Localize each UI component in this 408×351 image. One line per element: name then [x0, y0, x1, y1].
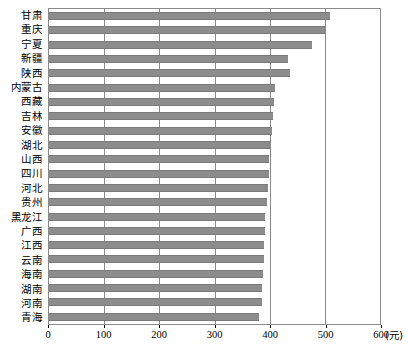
bar: [49, 227, 265, 235]
bar-row: [49, 38, 380, 52]
bar: [49, 155, 269, 163]
category-label: 宁夏: [0, 37, 45, 51]
bar: [49, 98, 274, 106]
category-axis-labels: 甘肃重庆宁夏新疆陕西内蒙古西藏吉林安徽湖北山西四川河北贵州黑龙江广西江西云南海南…: [0, 8, 45, 325]
bar-row: [49, 238, 380, 252]
bar: [49, 12, 330, 20]
bar-row: [49, 152, 380, 166]
axis-tick: [326, 325, 327, 328]
category-label: 陕西: [0, 66, 45, 80]
bar-row: [49, 124, 380, 138]
category-label: 新疆: [0, 51, 45, 65]
bar-row: [49, 138, 380, 152]
bar: [49, 313, 259, 321]
axis-tick: [48, 325, 49, 328]
bar-row: [49, 195, 380, 209]
bar-row: [49, 95, 380, 109]
axis-tick-label: 400: [262, 330, 278, 341]
bar: [49, 213, 265, 221]
category-label: 广西: [0, 224, 45, 238]
category-label: 内蒙古: [0, 80, 45, 94]
bar: [49, 55, 288, 63]
category-label: 青海: [0, 311, 45, 325]
bar: [49, 255, 264, 263]
axis-tick-label: 100: [96, 330, 112, 341]
bar: [49, 112, 273, 120]
category-label: 海南: [0, 267, 45, 281]
bar-row: [49, 109, 380, 123]
axis-tick: [104, 325, 105, 328]
category-label: 西藏: [0, 94, 45, 108]
axis-tick-label: 200: [151, 330, 167, 341]
axis-unit-label: (元): [385, 330, 403, 341]
category-label: 山西: [0, 152, 45, 166]
axis-tick: [381, 325, 382, 328]
plot-area: [48, 8, 381, 325]
bar: [49, 298, 262, 306]
category-label: 江西: [0, 239, 45, 253]
category-label: 甘肃: [0, 8, 45, 22]
category-label: 湖南: [0, 282, 45, 296]
bar: [49, 184, 268, 192]
axis-tick: [270, 325, 271, 328]
category-label: 贵州: [0, 195, 45, 209]
bar: [49, 84, 275, 92]
bar-row: [49, 295, 380, 309]
category-label: 吉林: [0, 109, 45, 123]
bar: [49, 69, 290, 77]
bar: [49, 198, 267, 206]
bar-row: [49, 81, 380, 95]
bar: [49, 284, 262, 292]
bar-row: [49, 166, 380, 180]
category-label: 重庆: [0, 22, 45, 36]
bar: [49, 141, 270, 149]
bar-row: [49, 52, 380, 66]
category-label: 安徽: [0, 123, 45, 137]
bar-series: [49, 9, 380, 324]
bar: [49, 127, 272, 135]
bar: [49, 170, 269, 178]
bar-row: [49, 224, 380, 238]
bar-row: [49, 310, 380, 324]
bar: [49, 26, 325, 34]
bar-row: [49, 23, 380, 37]
gridline: [380, 9, 381, 324]
category-label: 湖北: [0, 138, 45, 152]
axis-tick-label: 500: [318, 330, 334, 341]
category-label: 四川: [0, 166, 45, 180]
bar-chart: 甘肃重庆宁夏新疆陕西内蒙古西藏吉林安徽湖北山西四川河北贵州黑龙江广西江西云南海南…: [0, 0, 408, 351]
bar: [49, 241, 264, 249]
bar-row: [49, 281, 380, 295]
category-label: 河北: [0, 181, 45, 195]
bar-row: [49, 252, 380, 266]
value-axis: 0100200300400500600: [48, 325, 381, 351]
bar: [49, 270, 263, 278]
bar-row: [49, 66, 380, 80]
bar-row: [49, 267, 380, 281]
axis-tick-label: 0: [45, 330, 50, 341]
bar: [49, 41, 312, 49]
category-label: 黑龙江: [0, 210, 45, 224]
bar-row: [49, 209, 380, 223]
axis-tick: [215, 325, 216, 328]
bar-row: [49, 9, 380, 23]
axis-tick: [159, 325, 160, 328]
bar-row: [49, 181, 380, 195]
axis-tick-label: 300: [207, 330, 223, 341]
category-label: 云南: [0, 253, 45, 267]
category-label: 河南: [0, 296, 45, 310]
